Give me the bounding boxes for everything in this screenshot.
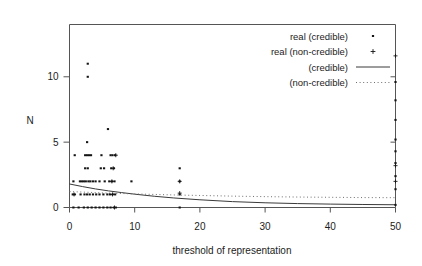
data-point-credible <box>106 193 108 195</box>
data-point-credible <box>85 180 87 182</box>
data-point-credible <box>107 128 109 130</box>
data-point-non-credible <box>114 153 118 157</box>
data-point-non-credible <box>110 179 114 183</box>
data-point-credible <box>81 180 83 182</box>
data-point-credible <box>92 193 94 195</box>
legend-label: (credible) <box>308 62 348 73</box>
data-point-non-credible <box>111 192 115 196</box>
data-point-credible <box>84 154 86 156</box>
data-point-non-credible <box>394 164 398 168</box>
data-point-credible <box>87 63 89 65</box>
data-point-credible <box>79 180 81 182</box>
data-point-credible <box>98 193 100 195</box>
legend-marker-dot-icon <box>372 35 374 37</box>
data-point-non-credible <box>178 179 182 183</box>
x-tick-label: 40 <box>325 221 337 232</box>
data-point-credible <box>89 180 91 182</box>
data-point-credible <box>87 207 89 209</box>
legend-label: real (non-credible) <box>271 46 348 57</box>
data-point-non-credible <box>394 179 398 183</box>
data-point-credible <box>130 180 132 182</box>
y-tick-label: 5 <box>53 137 59 148</box>
data-point-credible <box>87 167 89 169</box>
data-point-credible <box>100 167 102 169</box>
x-axis-ticks: 01020304050 <box>67 208 402 232</box>
data-point-credible <box>72 180 74 182</box>
figure-container: 01020304050 0510 real (credible)real (no… <box>0 0 422 266</box>
data-point-credible <box>98 180 100 182</box>
data-point-credible <box>91 207 93 209</box>
data-point-credible <box>102 207 104 209</box>
data-point-credible <box>79 193 81 195</box>
data-point-credible <box>179 167 181 169</box>
data-point-credible <box>394 139 396 141</box>
data-point-non-credible <box>72 192 76 196</box>
data-point-credible <box>394 188 396 190</box>
x-tick-label: 0 <box>67 221 73 232</box>
legend-marker-plus-icon <box>371 49 376 54</box>
data-point-credible <box>111 154 113 156</box>
x-tick-label: 10 <box>129 221 141 232</box>
x-axis-title: threshold of representation <box>173 245 292 256</box>
data-point-credible <box>102 193 104 195</box>
data-point-credible <box>95 193 97 195</box>
data-point-credible <box>394 204 396 206</box>
data-point-credible <box>394 99 396 101</box>
data-point-credible <box>84 167 86 169</box>
fit-curve-credible <box>70 184 396 205</box>
data-point-credible <box>94 207 96 209</box>
data-point-credible <box>179 207 181 209</box>
data-point-non-credible <box>394 54 398 58</box>
y-axis-title: N <box>26 115 33 126</box>
data-point-credible <box>86 141 88 143</box>
data-point-credible <box>92 180 94 182</box>
legend-label: real (credible) <box>290 31 348 42</box>
y-tick-label: 0 <box>53 202 59 213</box>
data-point-credible <box>89 193 91 195</box>
y-axis-ticks: 0510 <box>47 71 395 213</box>
data-point-credible <box>394 81 396 83</box>
data-point-credible <box>394 150 396 152</box>
data-point-credible <box>94 180 96 182</box>
y-tick-label: 10 <box>47 71 59 82</box>
legend: real (credible)real (non-credible)(credi… <box>271 31 390 89</box>
data-point-credible <box>100 154 102 156</box>
data-point-credible <box>83 193 85 195</box>
data-point-credible <box>74 154 76 156</box>
x-tick-label: 50 <box>390 221 402 232</box>
data-point-credible <box>109 207 111 209</box>
data-point-credible <box>87 180 89 182</box>
data-point-credible <box>104 180 106 182</box>
fit-curves <box>70 184 396 205</box>
data-point-credible <box>90 154 92 156</box>
scatter-plot: 01020304050 0510 real (credible)real (no… <box>0 0 422 266</box>
data-point-credible <box>86 193 88 195</box>
data-point-credible <box>106 207 108 209</box>
data-point-credible <box>394 119 396 121</box>
data-point-credible <box>78 207 80 209</box>
data-point-credible <box>394 175 396 177</box>
data-point-credible <box>88 154 90 156</box>
data-point-credible <box>83 207 85 209</box>
x-tick-label: 30 <box>260 221 272 232</box>
legend-label: (non-credible) <box>289 77 348 88</box>
data-point-credible <box>86 154 88 156</box>
data-point-non-credible <box>112 206 116 210</box>
data-point-credible <box>83 180 85 182</box>
x-tick-label: 20 <box>194 221 206 232</box>
data-point-credible <box>98 207 100 209</box>
data-point-credible <box>103 167 105 169</box>
data-point-credible <box>87 76 89 78</box>
data-point-credible <box>72 207 74 209</box>
data-point-non-credible <box>178 191 182 195</box>
data-points <box>72 54 398 210</box>
data-point-credible <box>109 154 111 156</box>
data-point-non-credible <box>111 166 115 170</box>
